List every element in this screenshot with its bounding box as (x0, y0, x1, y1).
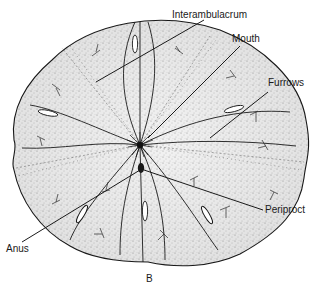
panel-letter: B (146, 274, 153, 284)
periproct-opening (138, 163, 144, 173)
label-furrows: Furrows (268, 78, 304, 88)
sand-dollar-diagram: Interambulacrum Mouth Furrows Periproct … (0, 0, 320, 287)
lunule-top (132, 35, 137, 53)
label-periproct: Periproct (265, 205, 305, 215)
label-interambulacrum: Interambulacrum (172, 10, 247, 20)
sand-dollar-illustration (0, 0, 320, 287)
lunule-bottom (142, 201, 147, 221)
label-mouth: Mouth (232, 34, 260, 44)
label-anus: Anus (6, 244, 29, 254)
